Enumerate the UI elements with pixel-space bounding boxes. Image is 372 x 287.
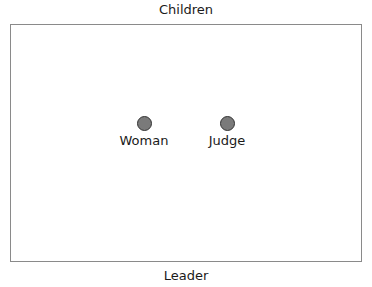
node-judge: Judge [182, 116, 272, 148]
node-dot [220, 116, 235, 131]
node-label: Judge [182, 133, 272, 148]
node-label: Woman [99, 133, 189, 148]
node-woman: Woman [99, 116, 189, 148]
bottom-axis-label: Leader [0, 268, 372, 283]
node-dot [137, 116, 152, 131]
top-axis-label: Children [0, 2, 372, 17]
